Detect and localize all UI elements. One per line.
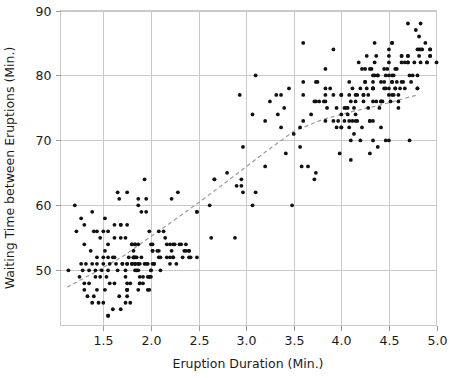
data-point — [354, 100, 358, 104]
data-point — [287, 87, 291, 91]
data-point — [414, 28, 418, 32]
data-point — [317, 100, 321, 104]
data-point — [324, 93, 328, 97]
data-point — [389, 100, 393, 104]
data-point — [352, 106, 356, 110]
data-point — [435, 61, 439, 65]
data-point — [78, 275, 82, 279]
data-point — [417, 54, 421, 58]
data-point — [419, 61, 423, 65]
data-point — [125, 281, 129, 285]
data-point — [373, 41, 377, 45]
data-point — [86, 294, 90, 298]
data-point — [254, 74, 258, 78]
data-point — [106, 255, 110, 259]
data-point — [339, 93, 343, 97]
data-point — [362, 93, 366, 97]
data-point — [416, 74, 420, 78]
data-point — [103, 249, 107, 253]
data-point — [239, 184, 243, 188]
data-point — [268, 100, 272, 104]
data-point — [98, 275, 102, 279]
data-point — [347, 126, 351, 130]
data-point — [87, 268, 91, 272]
data-point — [349, 158, 353, 162]
data-point — [119, 223, 123, 227]
data-point — [332, 119, 336, 123]
data-point — [314, 80, 318, 84]
data-point — [195, 255, 199, 259]
data-point — [181, 255, 185, 259]
data-point — [108, 262, 112, 266]
data-point — [419, 48, 423, 52]
data-point — [335, 126, 339, 130]
data-point — [332, 48, 336, 52]
data-point — [157, 255, 161, 259]
data-point — [332, 93, 336, 97]
data-point — [241, 145, 245, 149]
data-point — [176, 190, 180, 194]
y-tick-label: 80 — [36, 68, 52, 83]
data-point — [251, 203, 255, 207]
data-point — [213, 177, 217, 181]
data-point — [147, 229, 151, 233]
data-point — [117, 197, 121, 201]
data-point — [403, 87, 407, 91]
data-point — [346, 106, 350, 110]
data-point — [125, 190, 129, 194]
data-point — [90, 262, 94, 266]
data-point — [400, 54, 404, 58]
y-tick-label: 90 — [36, 4, 52, 19]
data-point — [393, 87, 397, 91]
data-point — [358, 87, 362, 91]
data-point — [324, 67, 328, 71]
data-point — [300, 164, 304, 168]
data-point — [416, 87, 420, 91]
plot-area-border — [61, 11, 437, 326]
data-point — [94, 275, 98, 279]
data-point — [101, 301, 105, 305]
data-point — [328, 87, 332, 91]
chart-canvas: 1.52.02.53.03.54.04.55.0 5060708090 Erup… — [0, 0, 451, 378]
data-point — [136, 203, 140, 207]
data-point — [403, 61, 407, 65]
data-point — [136, 197, 140, 201]
x-tick-label: 1.5 — [94, 333, 114, 348]
data-point — [170, 249, 174, 253]
data-point — [233, 236, 237, 240]
x-tick-label: 2.0 — [142, 333, 162, 348]
data-point — [335, 106, 339, 110]
data-point — [301, 80, 305, 84]
data-point — [101, 262, 105, 266]
data-point — [125, 288, 129, 292]
y-tick-label: 50 — [36, 263, 52, 278]
data-point — [298, 145, 302, 149]
data-point — [143, 262, 147, 266]
data-point — [284, 151, 288, 155]
data-point — [392, 93, 396, 97]
data-point — [314, 171, 318, 175]
x-tick-label: 5.0 — [428, 333, 448, 348]
data-point — [362, 100, 366, 104]
data-point — [347, 93, 351, 97]
data-point — [87, 281, 91, 285]
data-point — [135, 268, 139, 272]
x-axis-title: Eruption Duration (Min.) — [173, 356, 324, 371]
data-point — [136, 242, 140, 246]
data-point — [419, 22, 423, 26]
data-point — [168, 262, 172, 266]
data-point — [425, 61, 429, 65]
data-point — [124, 275, 128, 279]
data-point — [254, 190, 258, 194]
data-point — [95, 255, 99, 259]
data-point — [132, 249, 136, 253]
data-point — [408, 139, 412, 143]
data-point — [411, 74, 415, 78]
data-point — [133, 262, 137, 266]
data-point — [117, 294, 121, 298]
data-point — [387, 139, 391, 143]
data-point — [157, 249, 161, 253]
data-point — [98, 236, 102, 240]
data-point — [97, 301, 101, 305]
data-point — [357, 61, 361, 65]
